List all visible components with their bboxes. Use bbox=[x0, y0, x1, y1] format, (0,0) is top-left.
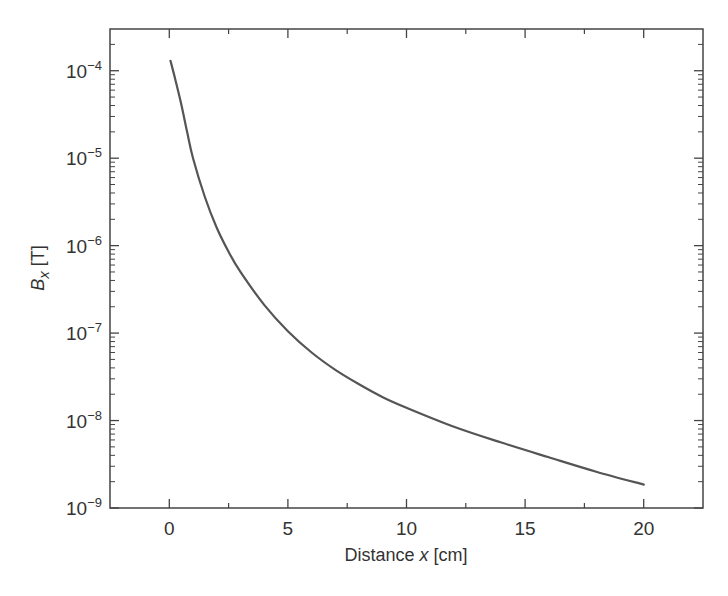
x-tick-label: 20 bbox=[633, 518, 654, 539]
y-tick-label: 10−9 bbox=[66, 495, 102, 519]
y-axis-tick-labels: 10−910−810−710−610−510−4 bbox=[66, 58, 102, 519]
y-axis-ticks bbox=[110, 44, 703, 508]
x-axis-tick-labels: 05101520 bbox=[164, 518, 654, 539]
y-tick-label: 10−6 bbox=[66, 233, 102, 257]
x-tick-label: 0 bbox=[164, 518, 175, 539]
data-line bbox=[170, 61, 643, 485]
y-axis-label: Bx [T] bbox=[28, 245, 52, 291]
y-tick-label: 10−8 bbox=[66, 408, 102, 432]
y-tick-label: 10−7 bbox=[66, 320, 102, 344]
x-tick-label: 5 bbox=[283, 518, 294, 539]
y-tick-label: 10−4 bbox=[66, 58, 102, 82]
x-tick-label: 15 bbox=[515, 518, 536, 539]
x-axis-ticks bbox=[169, 29, 643, 508]
y-tick-label: 10−5 bbox=[66, 145, 102, 169]
plot-frame bbox=[110, 29, 703, 508]
x-axis-label: Distance x [cm] bbox=[344, 545, 467, 565]
x-tick-label: 10 bbox=[396, 518, 417, 539]
chart: 05101520 10−910−810−710−610−510−4 Distan… bbox=[0, 0, 728, 596]
